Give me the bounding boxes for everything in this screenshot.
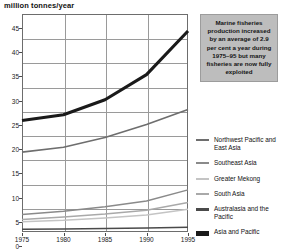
legend-item[interactable]: Australasia and the Pacific [196, 205, 282, 221]
x-axis-tick-mark [105, 233, 106, 236]
plot-area [22, 14, 188, 232]
legend-item-label: Australasia and the Pacific [214, 205, 282, 221]
y-axis-tick-label: 25 [3, 121, 19, 128]
y-axis-tick-label: 40 [3, 49, 19, 56]
y-axis-tick-label: 5 [3, 218, 19, 225]
legend-swatch-icon [196, 178, 209, 180]
x-axis-tick-mark [147, 233, 148, 236]
x-axis-tick-label: 1975 [15, 236, 29, 243]
legend-item-label: Asia and Pacific [214, 228, 259, 236]
y-axis-tick-label: 30 [3, 97, 19, 104]
legend-item-label: Greater Mekong [214, 175, 260, 183]
y-axis-tick-label: 45 [3, 25, 19, 32]
legend-item[interactable]: Asia and Pacific [196, 228, 282, 236]
x-axis-tick-label: 1985 [98, 236, 112, 243]
series-line [22, 202, 188, 219]
x-axis-tick-mark [64, 233, 65, 236]
legend-swatch-icon [196, 193, 209, 195]
y-axis-tick-label: 20 [3, 146, 19, 153]
y-axis-tick-label: 0 [3, 243, 19, 250]
legend-item[interactable]: Greater Mekong [196, 175, 282, 183]
legend-swatch-icon [196, 139, 209, 141]
x-axis-tick-label: 1995 [181, 236, 195, 243]
legend-swatch-icon [196, 231, 209, 236]
legend-swatch-icon [196, 162, 209, 164]
series-lines [22, 14, 188, 232]
y-axis: 051015202530354045 [0, 14, 19, 232]
page-title: million tonnes/year [4, 1, 74, 10]
legend-item-label: South Asia [214, 190, 245, 198]
x-axis: 19751980198519901995 [22, 233, 188, 247]
x-axis-tick-label: 1980 [56, 236, 70, 243]
y-axis-tick-label: 10 [3, 194, 19, 201]
series-line [22, 227, 188, 229]
series-line [22, 209, 188, 222]
legend-item-label: Northwest Pacific and East Asia [214, 136, 282, 152]
y-axis-tick-label: 35 [3, 73, 19, 80]
callout-annotation: Marine fisheries production increased by… [200, 14, 278, 82]
legend-item-label: Southeast Asia [214, 159, 257, 167]
legend-item[interactable]: Northwest Pacific and East Asia [196, 136, 282, 152]
x-axis-tick-mark [188, 233, 189, 236]
series-line [22, 190, 188, 215]
legend-item[interactable]: Southeast Asia [196, 159, 282, 167]
legend-item[interactable]: South Asia [196, 190, 282, 198]
x-axis-tick-mark [22, 233, 23, 236]
legend-swatch-icon [196, 208, 209, 211]
x-axis-tick-label: 1990 [139, 236, 153, 243]
chart-legend: Northwest Pacific and East AsiaSoutheast… [196, 136, 282, 244]
y-axis-tick-label: 15 [3, 170, 19, 177]
series-line [22, 31, 188, 121]
